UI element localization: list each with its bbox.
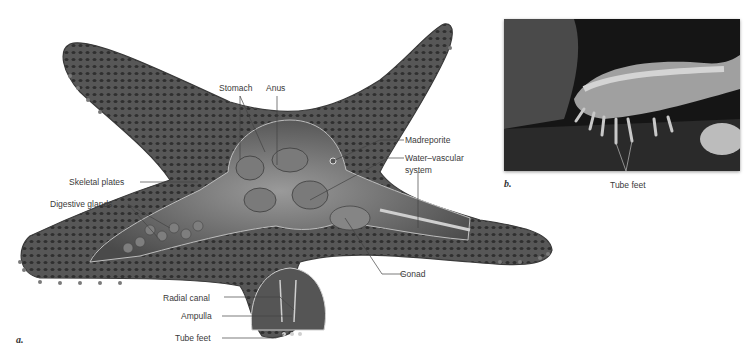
label-water-vascular: Water–vascular [405,153,464,163]
label-ampulla: Ampulla [181,311,212,321]
label-radial-canal: Radial canal [163,293,210,303]
label-stomach: Stomach [219,83,253,93]
gonad-organ [330,206,370,230]
label-digestive-glands: Digestive glands [50,199,112,209]
panel-letter-b: b. [504,178,512,189]
tube-feet-tips [282,332,302,336]
label-gonad: Gonad [400,269,426,279]
panel-letter-a: a. [16,334,24,345]
label-tube-feet-a: Tube feet [175,333,211,343]
label-skeletal-plates: Skeletal plates [69,177,124,187]
label-tube-feet-b: Tube feet [610,180,646,190]
label-madreporite: Madreporite [405,135,450,145]
label-anus: Anus [266,83,285,93]
madreporite-organ [330,158,336,164]
label-water-vascular-system: system [405,165,432,175]
tube-feet-photo [504,19,740,171]
